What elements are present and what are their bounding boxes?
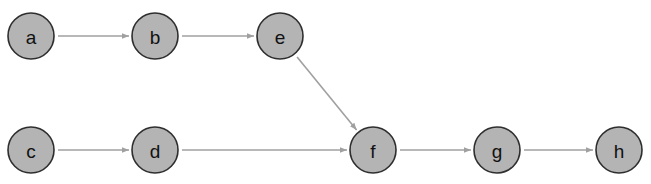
node-label: f — [370, 141, 376, 162]
node-label: a — [26, 27, 37, 48]
node-f: f — [350, 127, 396, 173]
node-e: e — [257, 13, 303, 59]
node-label: h — [614, 141, 625, 162]
node-label: d — [150, 141, 161, 162]
node-label: e — [275, 27, 286, 48]
dependency-graph: abecdfgh — [0, 0, 651, 184]
node-h: h — [596, 127, 642, 173]
node-g: g — [474, 127, 520, 173]
node-b: b — [132, 13, 178, 59]
node-label: b — [150, 27, 161, 48]
node-label: g — [492, 141, 503, 162]
node-label: c — [26, 141, 36, 162]
edge-e-to-f — [297, 57, 357, 130]
nodes-layer: abecdfgh — [8, 13, 642, 173]
node-a: a — [8, 13, 54, 59]
node-d: d — [132, 127, 178, 173]
node-c: c — [8, 127, 54, 173]
